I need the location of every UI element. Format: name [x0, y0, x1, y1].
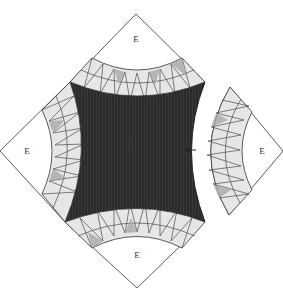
- corner-label-bottom: E: [134, 250, 140, 260]
- corner-label-top: E: [133, 34, 139, 44]
- corner-label-left: E: [24, 146, 30, 156]
- quilt-assembly-diagram: E E E: [0, 0, 283, 291]
- corner-unit-right-detached: E: [207, 87, 283, 215]
- corner-unit-bottom: E: [65, 203, 205, 288]
- center-label: F: [127, 138, 132, 148]
- corner-unit-top: E: [70, 14, 205, 101]
- corner-unit-left: E: [0, 82, 84, 222]
- corner-label-right: E: [259, 146, 265, 156]
- center-piece: [65, 82, 205, 222]
